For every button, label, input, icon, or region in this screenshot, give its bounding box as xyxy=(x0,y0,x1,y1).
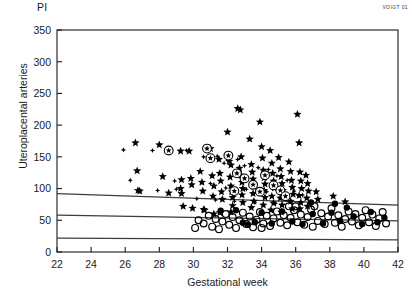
marker-open-circle xyxy=(379,209,386,216)
marker-star xyxy=(218,195,226,203)
marker-star xyxy=(247,160,255,168)
marker-star xyxy=(285,158,293,166)
marker-small-diamond xyxy=(194,196,199,201)
marker-star xyxy=(288,183,296,191)
marker-filled-circle xyxy=(240,220,246,226)
marker-star xyxy=(247,203,255,211)
svg-text:150: 150 xyxy=(33,151,51,163)
marker-star xyxy=(258,154,266,162)
marker-star xyxy=(198,178,206,186)
svg-text:42: 42 xyxy=(392,258,404,270)
svg-text:200: 200 xyxy=(33,119,51,131)
reference-line-lower-percentile xyxy=(57,238,398,240)
marker-open-circle xyxy=(192,224,199,231)
svg-text:50: 50 xyxy=(39,214,51,226)
marker-open-circle xyxy=(233,224,240,231)
marker-filled-circle xyxy=(217,208,223,214)
marker-star xyxy=(177,175,185,183)
marker-star xyxy=(248,168,256,176)
marker-star xyxy=(131,139,139,147)
marker-star xyxy=(250,197,258,205)
svg-text:22: 22 xyxy=(51,258,63,270)
marker-open-circle xyxy=(309,223,316,230)
svg-text:36: 36 xyxy=(290,258,302,270)
svg-text:32: 32 xyxy=(222,258,234,270)
marker-open-circle xyxy=(226,221,233,228)
marker-filled-circle xyxy=(252,219,258,225)
marker-star xyxy=(199,187,207,195)
marker-open-circle xyxy=(209,223,216,230)
marker-star xyxy=(188,204,196,212)
marker-filled-circle xyxy=(289,218,295,224)
marker-filled-circle xyxy=(310,211,316,217)
marker-star xyxy=(276,165,284,173)
marker-filled-circle xyxy=(279,208,285,214)
marker-filled-circle xyxy=(308,199,314,205)
marker-small-diamond xyxy=(201,154,206,159)
marker-star xyxy=(268,192,276,200)
marker-star xyxy=(188,180,196,188)
marker-star xyxy=(261,180,269,188)
svg-text:300: 300 xyxy=(33,56,51,68)
marker-small-diamond xyxy=(274,173,279,178)
marker-filled-circle xyxy=(233,207,239,213)
marker-small-diamond xyxy=(150,148,155,153)
marker-filled-circle xyxy=(368,209,374,215)
marker-open-circle xyxy=(277,219,284,226)
marker-open-circle xyxy=(260,220,267,227)
marker-filled-circle xyxy=(337,218,343,224)
svg-text:250: 250 xyxy=(33,87,51,99)
marker-filled-circle xyxy=(381,215,387,221)
marker-open-circle xyxy=(216,226,223,233)
marker-open-circle xyxy=(335,212,342,219)
marker-open-circle xyxy=(239,209,246,216)
svg-text:24: 24 xyxy=(85,258,97,270)
svg-text:100: 100 xyxy=(33,182,51,194)
marker-filled-circle xyxy=(350,213,356,219)
marker-filled-circle xyxy=(344,204,350,210)
marker-star xyxy=(302,171,310,179)
marker-star xyxy=(208,172,216,180)
marker-star xyxy=(179,202,187,210)
svg-text:26: 26 xyxy=(119,258,131,270)
marker-star xyxy=(287,167,295,175)
marker-filled-circle xyxy=(332,201,338,207)
marker-filled-circle xyxy=(374,219,380,225)
marker-star xyxy=(297,198,305,206)
marker-star xyxy=(259,201,267,209)
marker-star xyxy=(295,139,303,147)
marker-star xyxy=(177,184,185,192)
data-marker-layer xyxy=(121,104,390,232)
marker-filled-circle xyxy=(269,220,275,226)
marker-star xyxy=(133,167,141,175)
marker-small-diamond xyxy=(221,161,226,166)
marker-star xyxy=(159,172,167,180)
marker-star xyxy=(304,179,312,187)
marker-star xyxy=(269,199,277,207)
marker-open-circle xyxy=(297,211,304,218)
marker-star xyxy=(223,128,231,136)
marker-star xyxy=(216,169,224,177)
svg-text:30: 30 xyxy=(188,258,200,270)
marker-star xyxy=(187,174,195,182)
marker-star xyxy=(275,153,283,161)
svg-text:38: 38 xyxy=(324,258,336,270)
svg-text:28: 28 xyxy=(153,258,165,270)
marker-small-diamond xyxy=(155,188,160,193)
svg-text:40: 40 xyxy=(358,258,370,270)
marker-star xyxy=(246,135,254,143)
marker-open-circle xyxy=(258,224,265,231)
scatter-plot-canvas: 0501001502002503003502224262830323436384… xyxy=(0,0,412,297)
marker-star xyxy=(217,187,225,195)
marker-filled-circle xyxy=(299,221,305,227)
marker-star xyxy=(298,184,306,192)
marker-star xyxy=(196,167,204,175)
marker-star xyxy=(165,189,173,197)
marker-star xyxy=(304,187,312,195)
marker-star xyxy=(312,187,320,195)
marker-star xyxy=(341,198,349,206)
marker-star xyxy=(268,159,276,167)
marker-star xyxy=(258,142,266,150)
marker-filled-circle xyxy=(328,209,334,215)
marker-open-circle xyxy=(338,223,345,230)
